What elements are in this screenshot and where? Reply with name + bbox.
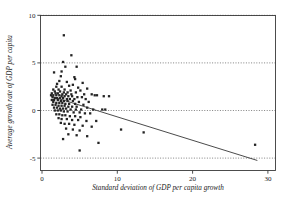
data-point	[55, 86, 57, 88]
data-point	[59, 90, 61, 92]
data-point	[94, 94, 96, 96]
data-point	[67, 106, 69, 108]
data-point	[53, 71, 55, 73]
data-point	[60, 118, 62, 120]
data-point	[80, 108, 82, 110]
data-point	[57, 117, 59, 119]
data-point	[56, 106, 58, 108]
data-point	[63, 110, 65, 112]
data-point	[54, 104, 56, 106]
data-point	[120, 128, 122, 130]
data-point	[66, 110, 68, 112]
data-point	[74, 115, 76, 117]
data-point	[61, 114, 63, 116]
data-point	[69, 108, 71, 110]
data-point	[60, 75, 62, 77]
data-point	[74, 78, 76, 80]
xtick-label-0: 0	[40, 175, 44, 183]
ytick-label-10: 10	[29, 12, 37, 20]
data-point	[86, 135, 88, 137]
data-point	[71, 119, 73, 121]
data-point	[68, 85, 70, 87]
data-point	[55, 113, 57, 115]
data-point	[55, 94, 57, 96]
data-point	[82, 82, 84, 84]
data-point	[84, 112, 86, 114]
data-point	[72, 84, 74, 86]
data-point	[60, 122, 62, 124]
data-point	[85, 120, 87, 122]
data-point	[77, 119, 79, 121]
data-point	[65, 107, 67, 109]
data-point	[91, 126, 93, 128]
xtick-label-30: 30	[264, 175, 272, 183]
y-axis-title: Average growth rate of GDP per capita	[6, 35, 14, 150]
data-point	[58, 94, 60, 96]
data-point	[67, 133, 69, 135]
data-point	[69, 89, 71, 91]
data-point	[68, 123, 70, 125]
data-point	[79, 111, 81, 113]
data-point	[60, 70, 62, 72]
data-point	[60, 86, 62, 88]
xtick-label-20: 20	[189, 175, 197, 183]
data-point	[73, 124, 75, 126]
data-point	[70, 54, 72, 56]
data-point	[71, 95, 73, 97]
data-point	[57, 99, 59, 101]
data-point	[75, 106, 77, 108]
data-point	[101, 108, 103, 110]
data-point	[63, 34, 65, 36]
data-point	[58, 102, 60, 104]
data-point	[75, 134, 77, 136]
data-point	[89, 112, 91, 114]
data-point	[62, 97, 64, 99]
data-point	[143, 131, 145, 133]
data-point	[82, 125, 84, 127]
data-point	[58, 113, 60, 115]
data-point	[75, 91, 77, 93]
data-point	[91, 93, 93, 95]
ytick-label-0: 0	[32, 107, 36, 115]
data-point	[64, 114, 66, 116]
data-point	[77, 87, 79, 89]
data-point	[63, 123, 65, 125]
data-point	[56, 83, 58, 85]
xtick-label-10: 10	[114, 175, 122, 183]
data-point	[104, 108, 106, 110]
data-point	[254, 144, 256, 146]
data-point	[72, 111, 74, 113]
data-point	[66, 118, 68, 120]
data-point	[69, 115, 71, 117]
data-point	[69, 98, 71, 100]
data-point	[88, 101, 90, 103]
plot-background	[0, 0, 290, 202]
data-point	[75, 108, 77, 110]
data-point	[64, 66, 66, 68]
data-point	[62, 61, 64, 63]
data-point	[57, 109, 59, 111]
data-point	[79, 129, 81, 131]
data-point	[68, 103, 70, 105]
data-point	[76, 96, 78, 98]
data-point	[108, 95, 110, 97]
data-point	[95, 120, 97, 122]
data-point	[78, 101, 80, 103]
data-point	[85, 98, 87, 100]
data-point	[79, 149, 81, 151]
data-point	[61, 102, 63, 104]
data-point	[71, 106, 73, 108]
data-point	[79, 89, 81, 91]
data-point	[72, 128, 74, 130]
data-point	[72, 100, 74, 102]
data-point	[63, 105, 65, 107]
data-point	[97, 142, 99, 144]
data-point	[79, 116, 81, 118]
scatter-plot: 0102030-50510 Standard deviation of GDP …	[0, 0, 290, 202]
data-point	[65, 127, 67, 129]
data-point	[51, 104, 53, 106]
data-point	[75, 66, 77, 68]
data-point	[96, 94, 98, 96]
ytick-label--5: -5	[30, 155, 36, 163]
chart-page: 0102030-50510 Standard deviation of GDP …	[0, 0, 290, 202]
